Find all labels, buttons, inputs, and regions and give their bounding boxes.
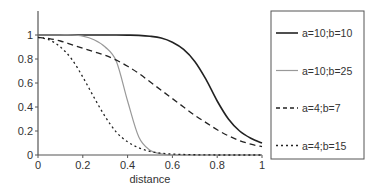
y-tick-label: 0 [27, 149, 33, 161]
series-line-2 [38, 37, 262, 146]
x-tick-label: 0.4 [120, 159, 135, 171]
x-tick-label: 0.6 [165, 159, 180, 171]
chart: 00.20.40.60.81 00.20.40.60.81 distance a… [0, 0, 370, 192]
y-tick-label: 0.2 [18, 125, 33, 137]
y-tick-label: 0.6 [18, 77, 33, 89]
plot-area [38, 35, 262, 155]
legend: a=10;b=10a=10;b=25a=4;b=7a=4;b=15 [271, 11, 364, 159]
legend-label: a=4;b=7 [302, 102, 341, 114]
x-tick-label: 0 [35, 159, 41, 171]
x-axis-label: distance [130, 173, 171, 185]
series-line-1 [38, 35, 262, 155]
x-tick-label: 0.2 [75, 159, 90, 171]
y-tick-label: 0.8 [18, 53, 33, 65]
axes: 00.20.40.60.81 00.20.40.60.81 distance [18, 11, 265, 185]
series-line-3 [38, 37, 262, 155]
x-tick-label: 1 [259, 159, 265, 171]
series-line-0 [38, 35, 262, 143]
y-tick-label: 1 [27, 29, 33, 41]
legend-label: a=10;b=10 [302, 27, 352, 39]
legend-label: a=4;b=15 [302, 140, 347, 152]
legend-label: a=10;b=25 [302, 65, 352, 77]
x-tick-label: 0.8 [210, 159, 225, 171]
y-tick-label: 0.4 [18, 101, 33, 113]
